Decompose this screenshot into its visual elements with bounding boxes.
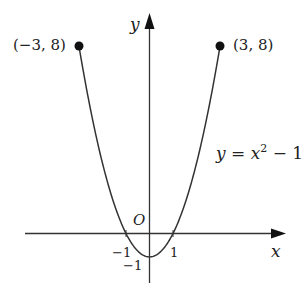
y-axis-arrow-icon [145, 13, 155, 29]
x-axis-label: x [271, 243, 281, 260]
equation-label: y = x2 − 1 [216, 143, 303, 162]
y-tick-label-neg1: −1 [123, 259, 142, 272]
equation-equals: = [226, 143, 251, 163]
equation-x: x [251, 143, 261, 163]
x-axis-arrow-icon [271, 229, 286, 239]
origin-label: O [133, 213, 145, 228]
point-right-marker [216, 42, 225, 51]
left-point-label: (−3, 8) [13, 38, 66, 53]
right-point-label: (3, 8) [233, 38, 273, 53]
equation-y: y [216, 143, 226, 163]
y-axis-label: y [130, 16, 140, 33]
x-tick-label-pos1: 1 [170, 246, 178, 259]
equation-rest: − 1 [267, 143, 303, 163]
point-left-marker [75, 42, 84, 51]
